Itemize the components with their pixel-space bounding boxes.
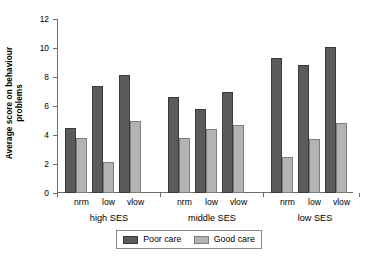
bar-good-care-middle-ses-nrm	[179, 138, 190, 193]
bar-good-care-middle-ses-vlow	[233, 125, 244, 193]
bar-chart: Average score on behaviour problems 0246…	[0, 0, 371, 257]
x-label-low-ses-vlow: vlow	[323, 198, 360, 207]
legend-swatch-good-care	[194, 236, 209, 244]
group-label-middle-ses: middle SES	[154, 213, 270, 223]
bar-good-care-low-ses-low	[309, 139, 320, 193]
y-tick-label-10: 10	[31, 44, 49, 52]
bar-poor-care-low-ses-low	[298, 65, 309, 193]
bar-poor-care-low-ses-vlow	[325, 47, 336, 193]
bar-good-care-low-ses-nrm	[282, 157, 293, 193]
y-tick-2	[53, 164, 57, 165]
y-tick-label-0: 0	[31, 189, 49, 197]
x-label-high-ses-vlow: vlow	[117, 198, 154, 207]
legend-item-good-care: Good care	[194, 235, 255, 244]
y-axis-title-line1: Average score on behaviour	[5, 46, 14, 158]
bar-good-care-high-ses-vlow	[130, 121, 141, 194]
bar-poor-care-low-ses-nrm	[271, 58, 282, 193]
y-tick-label-2: 2	[31, 160, 49, 168]
legend-swatch-poor-care	[123, 236, 138, 244]
bar-good-care-high-ses-low	[103, 162, 114, 193]
y-tick-12	[53, 19, 57, 20]
bar-poor-care-middle-ses-nrm	[168, 97, 179, 193]
group-tick-start-0	[57, 193, 58, 197]
bar-good-care-high-ses-nrm	[76, 138, 87, 193]
y-tick-label-12: 12	[31, 15, 49, 23]
group-label-low-ses: low SES	[257, 213, 371, 223]
bar-poor-care-high-ses-nrm	[65, 128, 76, 193]
bar-poor-care-high-ses-low	[92, 86, 103, 193]
bar-good-care-low-ses-vlow	[336, 123, 347, 193]
bar-poor-care-high-ses-vlow	[119, 75, 130, 193]
y-axis-title-line2: problems	[15, 46, 25, 158]
group-tick-end	[359, 193, 360, 197]
y-tick-4	[53, 135, 57, 136]
y-tick-label-4: 4	[31, 131, 49, 139]
y-tick-label-6: 6	[31, 102, 49, 110]
y-axis-line	[57, 19, 58, 193]
bar-poor-care-middle-ses-low	[195, 109, 206, 193]
bar-good-care-middle-ses-low	[206, 129, 217, 193]
plot-area: 024681012	[57, 19, 353, 193]
legend-label-good-care: Good care	[214, 235, 255, 244]
y-tick-8	[53, 77, 57, 78]
y-tick-6	[53, 106, 57, 107]
y-tick-label-8: 8	[31, 73, 49, 81]
legend-item-poor-care: Poor care	[123, 235, 181, 244]
group-label-high-ses: high SES	[51, 213, 167, 223]
chart-legend: Poor care Good care	[116, 230, 262, 249]
x-label-middle-ses-vlow: vlow	[220, 198, 257, 207]
group-tick-start-2	[263, 193, 264, 197]
y-axis-title: Average score on behaviour problems	[0, 0, 30, 205]
legend-label-poor-care: Poor care	[143, 235, 181, 244]
y-tick-10	[53, 48, 57, 49]
group-tick-start-1	[160, 193, 161, 197]
bar-poor-care-middle-ses-vlow	[222, 92, 233, 194]
